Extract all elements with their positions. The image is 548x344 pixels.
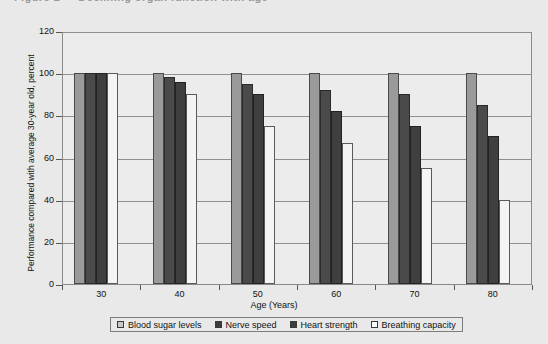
bar [421,168,432,284]
legend-swatch [371,321,378,328]
bar [499,200,510,284]
x-tick-mark [375,285,376,290]
x-axis-title: Age (Years) [0,300,548,310]
y-tick-label: 40 [20,195,54,205]
legend-item[interactable]: Nerve speed [215,320,277,330]
legend-item[interactable]: Blood sugar levels [117,320,202,330]
legend-swatch [117,321,124,328]
chart-title-clipped: Figure 1 — Declining organ function with… [0,0,548,10]
legend-item[interactable]: Breathing capacity [371,320,456,330]
x-tick-label: 80 [463,289,523,299]
bar [253,94,264,284]
bar [488,136,499,284]
x-tick-mark [297,285,298,290]
x-tick-mark [140,285,141,290]
bar [186,94,197,284]
gridline [63,159,531,160]
legend-label: Heart strength [301,320,358,330]
x-tick-label: 30 [71,289,131,299]
bar [466,73,477,284]
bar [399,94,410,284]
y-tick-label: 80 [20,110,54,120]
chart-legend: Blood sugar levelsNerve speedHeart stren… [110,317,463,332]
bar [342,143,353,284]
bar [331,111,342,284]
bar [320,90,331,284]
bar [242,84,253,284]
y-tick-label: 60 [20,153,54,163]
bar-chart: Figure 1 — Declining organ function with… [0,0,548,344]
x-tick-mark [62,285,63,290]
legend-swatch [290,321,297,328]
bar [164,77,175,284]
gridline [63,243,531,244]
legend-label: Nerve speed [226,320,277,330]
bar [153,73,164,284]
x-tick-mark [219,285,220,290]
y-tick-label: 120 [20,26,54,36]
y-tick-label: 100 [20,68,54,78]
x-tick-mark [454,285,455,290]
legend-label: Blood sugar levels [128,320,202,330]
x-tick-label: 70 [385,289,445,299]
bar [477,105,488,284]
x-tick-mark [532,285,533,290]
legend-label: Breathing capacity [382,320,456,330]
x-tick-label: 50 [228,289,288,299]
bar [74,73,85,284]
y-tick-label: 20 [20,237,54,247]
plot-area [62,32,532,285]
gridline [63,116,531,117]
bar [107,73,118,284]
gridline [63,201,531,202]
bar [231,73,242,284]
chart-title-text: Figure 1 — Declining organ function with… [14,0,268,3]
x-tick-label: 40 [150,289,210,299]
bar [388,73,399,284]
bar [264,126,275,284]
legend-item[interactable]: Heart strength [290,320,358,330]
bar [175,82,186,284]
bar [85,73,96,284]
x-tick-label: 60 [306,289,366,299]
gridline [63,74,531,75]
y-tick-label: 0 [20,279,54,289]
bar [96,73,107,284]
bar [410,126,421,284]
gridline [63,32,531,33]
bar [309,73,320,284]
legend-swatch [215,321,222,328]
